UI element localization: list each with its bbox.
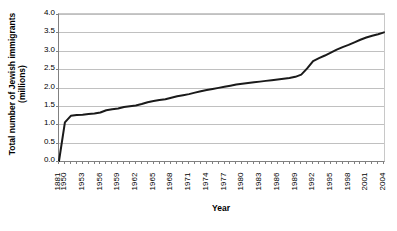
y-axis-tick-label: 2.5 bbox=[30, 64, 55, 72]
x-axis-tickmark bbox=[312, 161, 313, 164]
x-axis-tickmark bbox=[224, 161, 225, 164]
y-axis-tickmark bbox=[56, 14, 59, 15]
x-axis-tickmark bbox=[359, 161, 360, 164]
x-axis-tickmark bbox=[218, 161, 219, 164]
y-axis-tick-label: 3.0 bbox=[30, 46, 55, 54]
y-axis-tickmark bbox=[56, 88, 59, 89]
x-axis-tickmark bbox=[129, 161, 130, 164]
y-axis-tickmark bbox=[56, 69, 59, 70]
x-axis-tickmark bbox=[289, 161, 290, 164]
x-axis-tickmark bbox=[64, 161, 65, 164]
x-axis-tickmark bbox=[354, 161, 355, 164]
y-axis-tick-label: 3.5 bbox=[30, 27, 55, 35]
x-axis-tickmark bbox=[324, 161, 325, 164]
x-axis-tickmarks bbox=[58, 161, 384, 165]
x-axis-tickmark bbox=[271, 161, 272, 164]
x-axis-tickmark bbox=[336, 161, 337, 164]
x-axis-tickmark bbox=[141, 161, 142, 164]
y-axis-tick-label: 1.0 bbox=[30, 119, 55, 127]
chart-container: Total number of Jewish immigrants (milli… bbox=[0, 0, 397, 231]
x-axis-tickmark bbox=[58, 161, 59, 164]
x-axis-tick-label: 1974 bbox=[201, 166, 211, 196]
y-axis-tick-label: 1.5 bbox=[30, 101, 55, 109]
y-axis-tickmark bbox=[56, 106, 59, 107]
plot-area bbox=[58, 13, 385, 162]
x-axis-tickmark bbox=[164, 161, 165, 164]
x-axis-tick-label: 1998 bbox=[343, 166, 353, 196]
x-axis-tickmark bbox=[348, 161, 349, 164]
y-axis-title-line2: (millions) bbox=[17, 13, 27, 155]
x-axis-tickmark bbox=[265, 161, 266, 164]
x-axis-tickmark bbox=[259, 161, 260, 164]
x-axis-tickmark bbox=[294, 161, 295, 164]
x-axis-tick-label: 1950 bbox=[59, 166, 69, 196]
x-axis-tickmark bbox=[82, 161, 83, 164]
y-axis-tickmark bbox=[56, 143, 59, 144]
x-axis-tick-label: 1962 bbox=[130, 166, 140, 196]
x-axis-tickmark bbox=[306, 161, 307, 164]
y-axis-tickmark bbox=[56, 51, 59, 52]
x-axis-tickmark bbox=[229, 161, 230, 164]
x-axis-tickmark bbox=[206, 161, 207, 164]
x-axis-tickmark bbox=[253, 161, 254, 164]
y-axis-tick-labels: 0.00.51.01.52.02.53.03.54.0 bbox=[30, 9, 55, 160]
x-axis-tickmark bbox=[135, 161, 136, 164]
y-axis-tickmark bbox=[56, 124, 59, 125]
x-axis-tick-label: 1995 bbox=[325, 166, 335, 196]
x-axis-tickmark bbox=[212, 161, 213, 164]
x-axis-tickmark bbox=[111, 161, 112, 164]
x-axis-tickmark bbox=[277, 161, 278, 164]
x-axis-tickmark bbox=[283, 161, 284, 164]
y-axis-tick-label: 4.0 bbox=[30, 9, 55, 17]
x-axis-tickmark bbox=[247, 161, 248, 164]
x-axis-tickmark bbox=[105, 161, 106, 164]
x-axis-tickmark bbox=[170, 161, 171, 164]
y-axis-tick-label: 0.5 bbox=[30, 138, 55, 146]
x-axis-tickmark bbox=[200, 161, 201, 164]
x-axis-tickmark bbox=[342, 161, 343, 164]
y-axis-tickmark bbox=[56, 32, 59, 33]
x-axis-tickmark bbox=[70, 161, 71, 164]
x-axis-tick-label: 1983 bbox=[254, 166, 264, 196]
x-axis-tick-label: 1980 bbox=[236, 166, 246, 196]
x-axis-tickmark bbox=[147, 161, 148, 164]
x-axis-tickmark bbox=[377, 161, 378, 164]
x-axis-tickmark bbox=[123, 161, 124, 164]
x-axis-tick-label: 2001 bbox=[360, 166, 370, 196]
x-axis-tickmark bbox=[88, 161, 89, 164]
x-axis-tickmark bbox=[365, 161, 366, 164]
x-axis-tick-label: 1989 bbox=[289, 166, 299, 196]
x-axis-tickmark bbox=[318, 161, 319, 164]
x-axis-tickmark bbox=[383, 161, 384, 164]
x-axis-tickmark bbox=[159, 161, 160, 164]
x-axis-tick-label: 1959 bbox=[112, 166, 122, 196]
x-axis-tick-label: 1965 bbox=[148, 166, 158, 196]
x-axis-tickmark bbox=[176, 161, 177, 164]
x-axis-tickmark bbox=[300, 161, 301, 164]
x-axis-tickmark bbox=[188, 161, 189, 164]
x-axis-tick-label: 1953 bbox=[77, 166, 87, 196]
x-axis-tick-label: 1992 bbox=[307, 166, 317, 196]
x-axis-tickmark bbox=[117, 161, 118, 164]
x-axis-title: Year bbox=[58, 203, 384, 213]
x-axis-tick-label: 1956 bbox=[94, 166, 104, 196]
x-axis-tickmark bbox=[99, 161, 100, 164]
x-axis-tickmark bbox=[153, 161, 154, 164]
series-line-immigrants bbox=[59, 14, 384, 161]
y-axis-tick-label: 0.0 bbox=[30, 156, 55, 164]
x-axis-tickmark bbox=[182, 161, 183, 164]
x-axis-tick-label: 1986 bbox=[272, 166, 282, 196]
x-axis-tick-labels: 1881195019531956195919621965196819711974… bbox=[58, 166, 384, 198]
x-axis-tickmark bbox=[94, 161, 95, 164]
x-axis-tickmark bbox=[371, 161, 372, 164]
x-axis-tickmark bbox=[235, 161, 236, 164]
y-axis-tick-label: 2.0 bbox=[30, 83, 55, 91]
x-axis-tickmark bbox=[241, 161, 242, 164]
x-axis-tickmark bbox=[330, 161, 331, 164]
y-axis-title: Total number of Jewish immigrants (milli… bbox=[0, 0, 34, 168]
y-axis-title-line1: Total number of Jewish immigrants bbox=[7, 13, 17, 155]
x-axis-tick-label: 1968 bbox=[165, 166, 175, 196]
x-axis-tick-label: 1971 bbox=[183, 166, 193, 196]
x-axis-tickmark bbox=[194, 161, 195, 164]
x-axis-tick-label: 1977 bbox=[219, 166, 229, 196]
